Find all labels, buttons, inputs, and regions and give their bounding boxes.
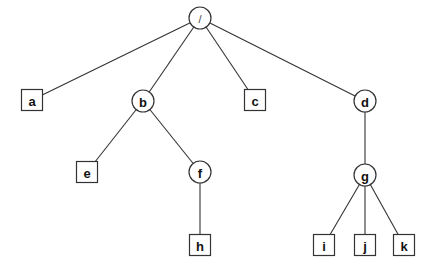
node-k: k (394, 235, 415, 256)
edge-b-f (143, 101, 200, 172)
node-c: c (245, 90, 266, 111)
node-b: b (132, 90, 154, 112)
node-label: g (361, 169, 369, 184)
node-label: c (251, 94, 258, 109)
node-g: g (354, 164, 376, 186)
node-root: / (189, 7, 211, 29)
node-a: a (22, 90, 43, 111)
edges (32, 18, 404, 245)
node-label: i (322, 239, 326, 254)
node-label: h (196, 239, 204, 254)
node-d: d (354, 90, 376, 112)
node-f: f (189, 161, 211, 183)
node-e: e (77, 162, 98, 183)
node-label: j (362, 239, 367, 254)
node-label: k (400, 239, 408, 254)
node-h: h (190, 235, 211, 256)
node-label: d (361, 95, 369, 110)
edge-root-a (32, 18, 200, 100)
node-j: j (355, 235, 376, 256)
node-label: a (28, 94, 36, 109)
edge-root-c (200, 18, 255, 100)
node-label: b (139, 95, 147, 110)
edge-root-b (143, 18, 200, 101)
node-label: f (198, 166, 203, 181)
node-i: i (314, 235, 335, 256)
node-label: e (83, 166, 90, 181)
edge-root-d (200, 18, 365, 101)
tree-diagram: /abcdefghijk (0, 0, 434, 274)
